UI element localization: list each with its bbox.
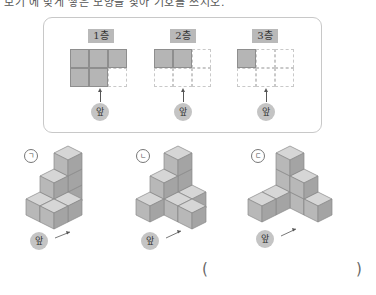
empty-cell [154, 68, 173, 87]
front-badge: 앞 [141, 232, 159, 250]
layer-2-grid [154, 49, 211, 87]
front-badge: 앞 [257, 103, 275, 121]
layer-1-grid [70, 49, 127, 87]
layer-3-label: 3층 [252, 29, 278, 43]
cube-shapes [0, 130, 376, 250]
empty-cell [192, 49, 211, 68]
arrow-up-icon [100, 91, 101, 102]
filled-cell [70, 68, 89, 87]
empty-cell [108, 68, 127, 87]
layer-3-grid [237, 49, 294, 87]
front-badge: 앞 [174, 103, 192, 121]
empty-cell [275, 68, 294, 87]
filled-cell [237, 49, 256, 68]
empty-cell [275, 49, 294, 68]
empty-cell [173, 68, 192, 87]
filled-cell [173, 49, 192, 68]
front-badge: 앞 [256, 230, 274, 248]
layer-2-label: 2층 [170, 29, 196, 43]
empty-cell [237, 68, 256, 87]
empty-cell [256, 49, 275, 68]
filled-cell [70, 49, 89, 68]
answer-input[interactable] [215, 262, 355, 280]
front-badge: 앞 [91, 103, 109, 121]
filled-cell [89, 68, 108, 87]
empty-cell [256, 68, 275, 87]
empty-cell [192, 68, 211, 87]
arrow-up-icon [266, 91, 267, 102]
answer-close-paren: ) [356, 260, 362, 278]
arrow-up-icon [183, 91, 184, 102]
question-text: 보기 에 맞게 쌓은 모양을 찾아 기호를 쓰시오. [4, 0, 225, 9]
layer-1-label: 1층 [88, 29, 114, 43]
filled-cell [108, 49, 127, 68]
answer-open-paren: ( [202, 260, 208, 278]
front-badge: 앞 [30, 232, 48, 250]
filled-cell [89, 49, 108, 68]
filled-cell [154, 49, 173, 68]
